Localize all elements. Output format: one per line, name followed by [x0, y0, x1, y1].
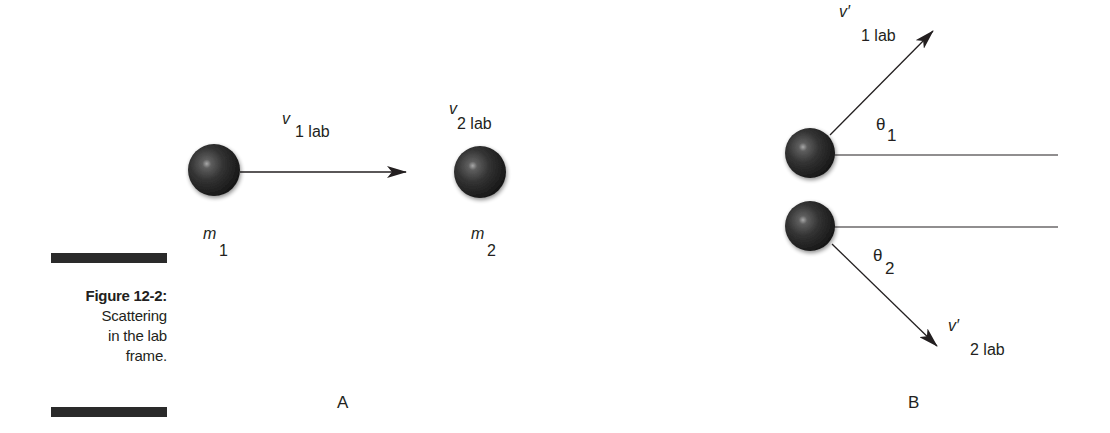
- panel-b: [785, 31, 1058, 346]
- velocity-2-prime-subscript: 2 lab: [970, 342, 1005, 358]
- mass-1-symbol: m: [203, 226, 216, 242]
- velocity-2-prime-symbol: v′: [948, 318, 959, 334]
- mass-2-symbol: m: [471, 226, 484, 242]
- velocity-1-symbol: v: [282, 111, 290, 127]
- ball-lower: [785, 201, 835, 251]
- angle-1-subscript: 1: [887, 127, 896, 144]
- velocity-1-subscript: 1 lab: [295, 124, 330, 140]
- velocity-1-prime-subscript: 1 lab: [861, 28, 896, 44]
- velocity-2-subscript: 2 lab: [457, 116, 492, 132]
- ball-upper: [785, 128, 835, 178]
- velocity-1-prime-symbol: v′: [839, 4, 850, 20]
- ball-m2: [454, 146, 506, 198]
- panel-b-label: B: [908, 393, 919, 413]
- mass-2-subscript: 2: [487, 243, 496, 259]
- ball-m1: [188, 144, 240, 196]
- angle-1-symbol: θ: [876, 116, 885, 133]
- panel-a-label: A: [337, 393, 348, 413]
- velocity-2-symbol: v: [449, 101, 457, 117]
- panel-a: [188, 144, 506, 198]
- mass-1-subscript: 1: [219, 243, 228, 259]
- angle-2-subscript: 2: [885, 260, 894, 277]
- scattering-diagram: [0, 0, 1110, 433]
- angle-2-symbol: θ: [873, 247, 882, 264]
